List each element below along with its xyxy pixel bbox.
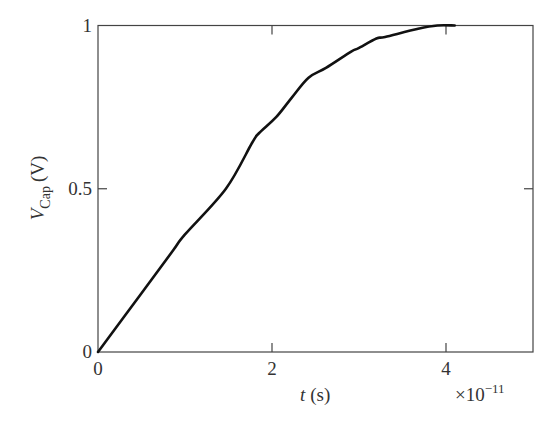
x-scale-multiplier: ×10−11	[455, 381, 505, 405]
data-line	[98, 25, 455, 352]
x-axis-label: t(s)	[300, 384, 330, 406]
x-scale-times: ×10	[455, 384, 485, 405]
x-tick-label: 0	[93, 358, 103, 379]
x-tick-label: 4	[441, 358, 451, 379]
y-tick-label: 0	[83, 341, 93, 362]
tick-labels: 02400.51	[68, 15, 451, 380]
y-tick-label: 0.5	[68, 178, 92, 199]
y-tick-label: 1	[83, 15, 93, 36]
x-tick-label: 2	[267, 358, 277, 379]
chart-svg: 02400.51 t(s) ×10−11 VCap(V)	[0, 0, 553, 434]
x-scale-exponent: −11	[485, 381, 505, 396]
y-axis-label: VCap(V)	[27, 156, 53, 221]
